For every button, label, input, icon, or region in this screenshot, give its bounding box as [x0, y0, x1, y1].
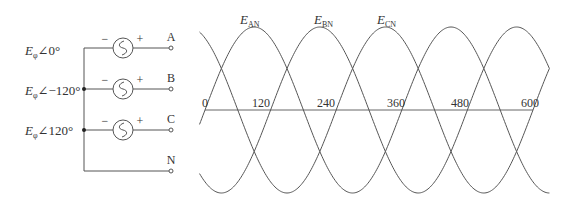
terminal-n	[169, 169, 173, 173]
polarity-plus-c: +	[137, 114, 144, 128]
terminal-b	[169, 87, 173, 91]
tick-label-480: 480	[451, 96, 469, 110]
curve-label-e-cn: ECN	[376, 12, 396, 29]
tick-label-240: 240	[317, 96, 335, 110]
polarity-plus-b: +	[137, 73, 144, 87]
curve-label-e-an: EAN	[239, 12, 260, 29]
terminal-label-c: C	[167, 112, 175, 126]
three-phase-source-circuit	[84, 48, 169, 171]
curve-label-e-bn: EBN	[313, 12, 333, 29]
polarity-minus-a: −	[102, 32, 109, 46]
phasor-label-b: Eφ∠−120°	[24, 83, 81, 100]
polarity-minus-b: −	[102, 73, 109, 87]
svg-text:Eφ∠−120°: Eφ∠−120°	[24, 83, 81, 100]
svg-text:Eφ∠120°: Eφ∠120°	[24, 123, 73, 140]
junction-dot-c	[82, 128, 86, 132]
tick-label-600: 600	[521, 96, 539, 110]
polarity-minus-c: −	[102, 114, 109, 128]
terminal-label-a: A	[167, 30, 176, 44]
polarity-plus-a: +	[137, 32, 144, 46]
ac-source-c-icon	[113, 120, 133, 140]
terminal-c	[169, 128, 173, 132]
junction-dot-b	[82, 87, 86, 91]
svg-text:Eφ∠0°: Eφ∠0°	[24, 43, 60, 60]
phasor-label-c: Eφ∠120°	[24, 123, 73, 140]
tick-label-0: 0	[202, 96, 208, 110]
terminal-label-b: B	[167, 71, 175, 85]
ac-source-a-icon	[113, 38, 133, 58]
ac-source-b-icon	[113, 79, 133, 99]
terminal-a	[169, 46, 173, 50]
waveform-plot: 0 120 240 360 480 600 EAN EBN ECN	[200, 12, 550, 193]
phasor-label-a: Eφ∠0°	[24, 43, 60, 60]
tick-label-360: 360	[387, 96, 405, 110]
tick-label-120: 120	[252, 96, 270, 110]
terminal-label-n: N	[167, 153, 176, 167]
